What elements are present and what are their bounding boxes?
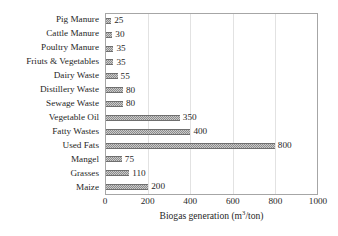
bar-row: 400 [106,125,317,139]
bar-value-label: 400 [193,127,207,136]
bar-row: 200 [106,180,317,194]
bar[interactable] [106,129,190,135]
bar-row: 35 [106,42,317,56]
category-label: Fatty Wastes [0,125,103,139]
bar[interactable] [106,184,148,190]
x-axis-tick-labels: 02004006008001000 [105,197,318,209]
bar-value-label: 35 [116,44,125,53]
bar-row: 80 [106,97,317,111]
category-axis: Pig ManureCattle ManurePoultry ManureFri… [0,13,103,195]
x-tick-label: 0 [103,197,108,206]
x-tick-label: 200 [141,197,155,206]
category-label: Maize [0,181,103,195]
bar-value-label: 30 [115,30,124,39]
bar-row: 800 [106,139,317,153]
bar[interactable] [106,73,118,79]
bar[interactable] [106,32,112,38]
bar-value-label: 80 [126,86,135,95]
bar-value-label: 200 [151,182,165,191]
bar-row: 35 [106,56,317,70]
category-label: Used Fats [0,139,103,153]
bar-value-label: 350 [183,113,197,122]
x-tick-label: 800 [269,197,283,206]
plot-area: 2530353555808035040080075110200 [105,13,318,195]
bar-value-label: 800 [278,141,292,150]
bar[interactable] [106,101,123,107]
category-label: Poultry Manure [0,41,103,55]
bar-value-label: 55 [121,72,130,81]
category-label: Vegetable Oil [0,111,103,125]
category-label: Mangel [0,153,103,167]
bar-row: 75 [106,152,317,166]
x-axis-title-main: Biogas generation (m [159,210,242,221]
category-label: Cattle Manure [0,27,103,41]
bar-value-label: 110 [132,169,145,178]
bar-value-label: 80 [126,99,135,108]
bar-row: 30 [106,28,317,42]
category-label: Sewage Waste [0,97,103,111]
category-label: Friuts & Vegetables [0,55,103,69]
category-label: Distillery Waste [0,83,103,97]
bar[interactable] [106,170,129,176]
category-label: Dairy Waste [0,69,103,83]
x-tick-label: 400 [183,197,197,206]
bar-value-label: 25 [114,16,123,25]
bar[interactable] [106,156,122,162]
bar-row: 350 [106,111,317,125]
bar-row: 55 [106,69,317,83]
category-label: Pig Manure [0,13,103,27]
bar[interactable] [106,143,275,149]
x-axis-title-tail: /ton) [245,210,263,221]
bar-value-label: 75 [125,155,134,164]
bar[interactable] [106,87,123,93]
bar[interactable] [106,115,180,121]
x-tick-label: 600 [226,197,240,206]
x-axis-title: Biogas generation (m3/ton) [105,211,318,221]
bar[interactable] [106,18,111,24]
bar-row: 80 [106,83,317,97]
bar-row: 110 [106,166,317,180]
bars-layer: 2530353555808035040080075110200 [106,14,317,194]
bar-value-label: 35 [116,58,125,67]
x-tick-label: 1000 [309,197,327,206]
bar-chart: Pig ManureCattle ManurePoultry ManureFri… [0,0,338,236]
bar[interactable] [106,59,113,65]
bar-row: 25 [106,14,317,28]
category-label: Grasses [0,167,103,181]
bar[interactable] [106,46,113,52]
